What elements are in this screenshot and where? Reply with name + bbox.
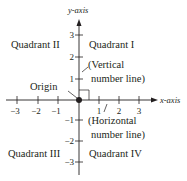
horizontal-number-line-label-2: number line) (91, 129, 145, 141)
y-axis-label: y-axis (67, 5, 89, 15)
quadrant-4-label: Quadrant IV (89, 148, 142, 159)
svg-text:1: 1 (70, 74, 75, 84)
x-axis-arrow-icon (151, 98, 158, 103)
svg-text:−2: −2 (64, 136, 74, 146)
svg-text:2: 2 (70, 52, 75, 62)
svg-text:−3: −3 (64, 157, 74, 167)
svg-text:−1: −1 (51, 106, 61, 116)
svg-text:−3: −3 (10, 106, 20, 116)
y-axis-arrow-icon (77, 19, 82, 26)
y-tick-labels: 3 2 1 −1 −2 −3 (64, 30, 74, 167)
horizontal-leader-line (104, 104, 107, 112)
quadrant-2-label: Quadrant II (11, 39, 60, 50)
vertical-number-line-label-2: number line) (91, 73, 145, 85)
svg-text:−1: −1 (64, 115, 74, 125)
origin-leader-line (68, 91, 77, 98)
vertical-number-line-label-1: (Vertical (88, 59, 124, 71)
coordinate-plane-diagram: y-axis x-axis −3 −2 −1 1 2 3 3 2 1 −1 −2… (0, 0, 187, 181)
svg-text:−2: −2 (31, 106, 41, 116)
origin-label: Origin (30, 81, 58, 92)
quadrant-3-label: Quadrant III (8, 148, 61, 159)
svg-text:3: 3 (137, 106, 142, 116)
svg-text:3: 3 (70, 30, 75, 40)
horizontal-number-line-label-1: (Horizontal (88, 115, 136, 127)
x-axis-label: x-axis (159, 95, 181, 105)
quadrant-1-label: Quadrant I (89, 39, 135, 50)
